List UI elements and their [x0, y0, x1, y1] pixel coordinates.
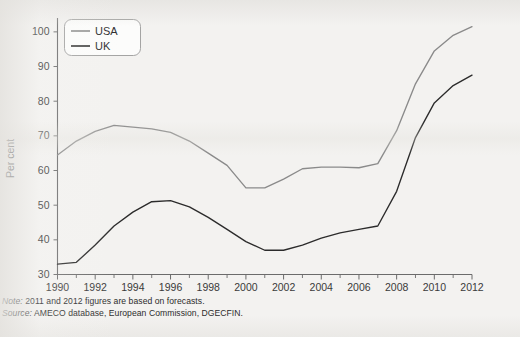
footnote-note-lead: Note: — [2, 296, 23, 306]
series-line-uk — [58, 75, 473, 264]
y-tick-label-80: 80 — [38, 95, 50, 107]
x-axis-tick-labels: 1990199219941996199820002002200420062008… — [46, 281, 484, 293]
x-tick-label-2002: 2002 — [272, 281, 296, 293]
legend-label-usa: USA — [95, 25, 118, 37]
x-tick-label-1992: 1992 — [84, 281, 108, 293]
chart-legend: USA UK — [65, 20, 141, 56]
figure-container: 30405060708090100 1990199219941996199820… — [0, 0, 520, 337]
footnote-source-text: AMECO database, European Commission, DGE… — [32, 308, 243, 318]
footnote-note: Note: 2011 and 2012 figures are based on… — [2, 296, 518, 308]
footnote-note-text: 2011 and 2012 figures are based on forec… — [23, 296, 205, 306]
legend-label-uk: UK — [95, 40, 111, 52]
x-tick-label-2000: 2000 — [234, 281, 258, 293]
chart-plot-area: 30405060708090100 1990199219941996199820… — [0, 0, 520, 300]
x-tick-label-1990: 1990 — [46, 281, 70, 293]
y-tick-label-50: 50 — [38, 199, 50, 211]
figure-footnotes: Note: 2011 and 2012 figures are based on… — [2, 296, 518, 319]
y-tick-label-70: 70 — [38, 129, 50, 141]
x-tick-label-1996: 1996 — [159, 281, 183, 293]
footnote-source: Source: AMECO database, European Commiss… — [2, 308, 518, 320]
y-axis-tick-labels: 30405060708090100 — [32, 25, 50, 280]
x-tick-label-1998: 1998 — [197, 281, 221, 293]
y-axis-ticks — [54, 32, 58, 275]
y-axis-title: Per cent — [4, 139, 16, 178]
y-tick-label-90: 90 — [38, 60, 50, 72]
x-tick-label-2010: 2010 — [423, 281, 447, 293]
x-tick-label-1994: 1994 — [121, 281, 145, 293]
x-tick-label-2006: 2006 — [347, 281, 371, 293]
y-tick-label-100: 100 — [32, 25, 50, 37]
y-tick-label-40: 40 — [38, 233, 50, 245]
y-tick-label-60: 60 — [38, 164, 50, 176]
x-tick-label-2008: 2008 — [385, 281, 409, 293]
x-tick-label-2004: 2004 — [310, 281, 334, 293]
line-chart: 30405060708090100 1990199219941996199820… — [0, 0, 520, 300]
x-tick-label-2012: 2012 — [460, 281, 484, 293]
x-axis-ticks — [58, 275, 473, 280]
footnote-source-lead: Source: — [2, 308, 32, 318]
y-tick-label-30: 30 — [38, 268, 50, 280]
